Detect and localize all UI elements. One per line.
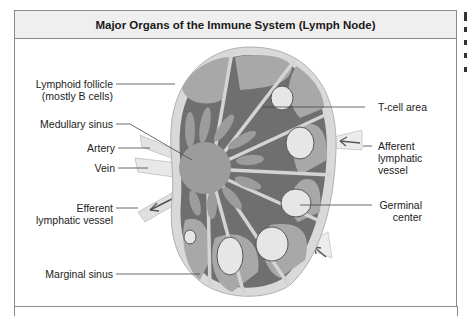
label-afferent-lymphatic-vessel: Afferent lymphatic vessel	[378, 140, 422, 176]
label-t-cell-area: T-cell area	[378, 101, 427, 113]
label-line: vessel	[378, 164, 422, 176]
label-line: Germinal	[379, 199, 422, 211]
label-line: lymphatic vessel	[36, 214, 113, 226]
label-medullary-sinus: Medullary sinus	[40, 118, 113, 130]
label-vein: Vein	[95, 162, 115, 174]
label-line: T-cell area	[378, 101, 427, 113]
label-line: Efferent	[36, 202, 113, 214]
label-line: Lymphoid follicle	[36, 78, 113, 90]
label-line: Medullary sinus	[40, 118, 113, 130]
label-line: lymphatic	[378, 152, 422, 164]
label-line: (mostly B cells)	[36, 90, 113, 102]
label-efferent-lymphatic-vessel: Efferent lymphatic vessel	[36, 202, 113, 226]
label-germinal-center: Germinal center	[379, 199, 422, 223]
label-marginal-sinus: Marginal sinus	[45, 268, 113, 280]
label-line: Marginal sinus	[45, 268, 113, 280]
label-line: Vein	[95, 162, 115, 174]
label-artery: Artery	[87, 142, 115, 154]
label-line: center	[379, 211, 422, 223]
label-line: Artery	[87, 142, 115, 154]
label-line: Afferent	[378, 140, 422, 152]
label-lymphoid-follicle: Lymphoid follicle (mostly B cells)	[36, 78, 113, 102]
